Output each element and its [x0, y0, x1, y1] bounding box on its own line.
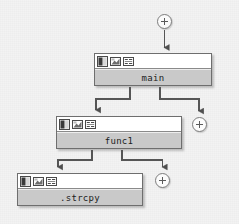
source-view-icon[interactable]: [59, 119, 70, 130]
function-node-label: main: [95, 69, 211, 85]
function-node-strcpy[interactable]: .strcpy: [17, 173, 143, 206]
graph-view-icon[interactable]: [33, 176, 44, 187]
function-node-toolbar[interactable]: [95, 54, 211, 69]
plus-icon: [199, 121, 200, 128]
function-node-main[interactable]: main: [94, 53, 212, 86]
source-view-icon[interactable]: [97, 56, 108, 67]
disassembly-view-icon[interactable]: [46, 176, 57, 187]
expand-node-root[interactable]: [157, 14, 172, 29]
edge-main-func1: [96, 87, 130, 110]
disassembly-view-icon[interactable]: [123, 56, 134, 67]
disassembly-view-icon[interactable]: [85, 119, 96, 130]
function-node-toolbar[interactable]: [18, 174, 142, 189]
plus-icon: [162, 177, 163, 184]
function-node-label: .strcpy: [18, 189, 142, 205]
plus-icon: [164, 18, 165, 25]
expand-node-main[interactable]: [192, 117, 207, 132]
graph-view-icon[interactable]: [72, 119, 83, 130]
edge-func1-plus: [122, 150, 163, 167]
function-node-func1[interactable]: func1: [56, 116, 182, 149]
graph-view-icon[interactable]: [110, 56, 121, 67]
function-node-toolbar[interactable]: [57, 117, 181, 132]
call-graph-canvas[interactable]: main f: [0, 0, 239, 224]
edge-main-plus: [160, 87, 199, 111]
function-node-label: func1: [57, 132, 181, 148]
expand-node-func1[interactable]: [155, 173, 170, 188]
source-view-icon[interactable]: [20, 176, 31, 187]
edge-func1-strcpy: [58, 150, 92, 167]
